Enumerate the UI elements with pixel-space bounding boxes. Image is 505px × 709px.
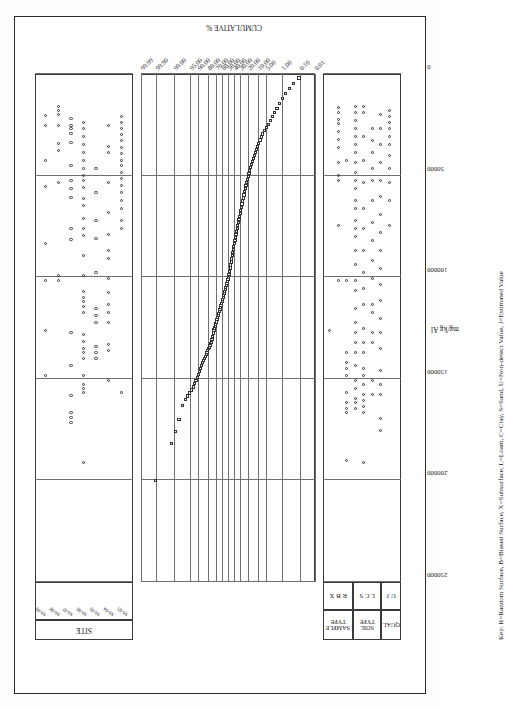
attribute-data-point bbox=[354, 151, 357, 154]
al-data-point bbox=[196, 376, 199, 379]
attribute-data-point bbox=[388, 224, 391, 227]
attribute-data-point bbox=[337, 174, 340, 177]
site-data-point bbox=[120, 171, 123, 174]
site-data-point bbox=[120, 199, 123, 202]
probability-grid-line bbox=[141, 74, 142, 582]
al-data-point bbox=[261, 132, 264, 135]
concentration-tick-label: 50000 bbox=[427, 166, 444, 173]
site-data-point bbox=[94, 314, 97, 317]
cumulative-tick-label: 0.01 bbox=[313, 59, 326, 72]
attribute-data-point bbox=[354, 105, 357, 108]
al-data-point bbox=[154, 479, 157, 482]
attribute-data-point bbox=[337, 161, 340, 164]
al-data-point bbox=[281, 97, 284, 100]
attribute-data-point bbox=[388, 143, 391, 146]
site-data-point bbox=[57, 279, 60, 282]
attribute-grid-line bbox=[323, 378, 401, 379]
site-data-point bbox=[94, 345, 97, 348]
attribute-data-point bbox=[388, 167, 391, 170]
al-data-point bbox=[242, 193, 245, 196]
attribute-data-point bbox=[354, 401, 357, 404]
attribute-data-point bbox=[371, 199, 374, 202]
al-data-point bbox=[227, 276, 230, 279]
site-data-point bbox=[69, 164, 72, 167]
attribute-data-point bbox=[337, 179, 340, 182]
al-data-point bbox=[230, 260, 233, 263]
al-data-point bbox=[242, 196, 245, 199]
al-data-point bbox=[248, 169, 251, 172]
attribute-data-point bbox=[337, 118, 340, 121]
al-data-point bbox=[211, 335, 214, 338]
al-data-point bbox=[233, 239, 236, 242]
attribute-data-point bbox=[354, 364, 357, 367]
probability-grid-line bbox=[228, 74, 229, 582]
al-data-point bbox=[244, 187, 247, 190]
attribute-data-point bbox=[388, 135, 391, 138]
site-data-point bbox=[57, 105, 60, 108]
probability-grid-line bbox=[266, 74, 267, 582]
attribute-data-point bbox=[371, 303, 374, 306]
site-code-label: SS-07 bbox=[62, 606, 74, 617]
soil-type-title: SOIL TYPE bbox=[353, 610, 381, 640]
al-data-point bbox=[210, 338, 213, 341]
site-data-point bbox=[94, 237, 97, 240]
al-data-point bbox=[263, 129, 266, 132]
attribute-data-point bbox=[388, 115, 391, 118]
probability-grid-line bbox=[198, 74, 199, 582]
site-data-point bbox=[120, 207, 123, 210]
site-data-point bbox=[57, 124, 60, 127]
site-grid-line bbox=[35, 73, 133, 74]
site-code-label: SS-08 bbox=[48, 606, 60, 617]
site-data-point bbox=[57, 113, 60, 116]
attribute-data-point bbox=[354, 331, 357, 334]
probability-grid-line bbox=[222, 74, 223, 582]
attribute-data-point bbox=[354, 263, 357, 266]
site-data-point bbox=[94, 219, 97, 222]
al-data-point bbox=[200, 364, 203, 367]
attribute-data-point bbox=[354, 407, 357, 410]
site-grid-line bbox=[35, 378, 133, 379]
site-data-point bbox=[94, 167, 97, 170]
concentration-tick-label: 250000 bbox=[427, 572, 447, 579]
site-code-legend: SS-09SS-08SS-07SS-06SS-05SS-04SS-03 bbox=[35, 582, 133, 620]
site-data-point bbox=[120, 146, 123, 149]
al-data-point bbox=[232, 245, 235, 248]
site-data-point bbox=[94, 271, 97, 274]
al-data-point bbox=[210, 341, 213, 344]
attribute-data-point bbox=[354, 279, 357, 282]
al-data-point bbox=[181, 404, 184, 407]
cumulative-tick-label: 99.90 bbox=[154, 56, 169, 71]
al-data-point bbox=[188, 391, 191, 394]
al-data-point bbox=[278, 102, 281, 105]
site-data-point bbox=[120, 177, 123, 180]
attribute-data-point bbox=[354, 179, 357, 182]
al-data-point bbox=[231, 251, 234, 254]
attribute-data-point bbox=[354, 187, 357, 190]
al-data-point bbox=[236, 227, 239, 230]
site-data-point bbox=[69, 124, 72, 127]
attribute-data-point bbox=[354, 307, 357, 310]
probability-grid-line bbox=[190, 74, 191, 582]
site-data-point bbox=[120, 191, 123, 194]
al-data-point bbox=[238, 215, 241, 218]
attribute-data-point bbox=[371, 311, 374, 314]
al-data-point bbox=[269, 119, 272, 122]
attribute-data-point bbox=[388, 154, 391, 157]
site-data-point bbox=[120, 139, 123, 142]
site-data-point bbox=[120, 121, 123, 124]
site-data-point bbox=[57, 109, 60, 112]
attribute-data-point bbox=[371, 221, 374, 224]
al-data-point bbox=[247, 175, 250, 178]
al-data-point bbox=[275, 107, 278, 110]
site-data-point bbox=[120, 227, 123, 230]
al-data-point bbox=[234, 233, 237, 236]
al-data-point bbox=[199, 367, 202, 370]
site-data-point bbox=[120, 127, 123, 130]
al-data-point bbox=[236, 224, 239, 227]
probability-grid-line bbox=[234, 74, 235, 582]
sample-type-codes: R B X bbox=[323, 582, 353, 610]
al-data-point bbox=[237, 218, 240, 221]
al-data-point bbox=[260, 135, 263, 138]
attribute-data-point bbox=[354, 207, 357, 210]
site-data-point bbox=[94, 191, 97, 194]
